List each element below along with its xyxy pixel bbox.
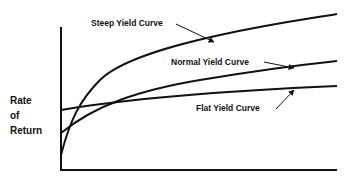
steep-curve-label: Steep Yield Curve — [91, 18, 163, 28]
steep-curve-arrow — [176, 24, 214, 42]
flat-curve-arrow — [276, 90, 294, 109]
yield-curve-chart: Steep Yield Curve Normal Yield Curve Fla… — [0, 0, 354, 189]
flat-curve-label: Flat Yield Curve — [196, 103, 260, 113]
normal-yield-curve — [61, 61, 337, 133]
normal-curve-label: Normal Yield Curve — [171, 57, 249, 67]
